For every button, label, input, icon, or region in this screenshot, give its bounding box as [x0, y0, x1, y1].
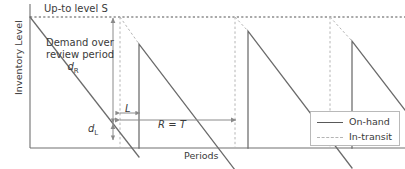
legend-swatch-in-transit: [317, 137, 343, 138]
legend-swatch-on-hand: [317, 122, 343, 123]
demand-label-line1: Demand over: [46, 37, 114, 48]
y-axis-label: Inventory Level: [13, 13, 24, 103]
legend-item-in-transit: In-transit: [311, 130, 399, 145]
legend-item-on-hand: On-hand: [311, 115, 399, 130]
in-transit-ramp-2: [235, 17, 248, 31]
dl-subscript: L: [94, 129, 98, 137]
lead-demand-symbol-dl: dL: [88, 123, 98, 137]
lead-time-label: L: [125, 103, 131, 115]
legend-label-in-transit: In-transit: [349, 131, 392, 142]
in-transit-ramp-1: [120, 17, 139, 44]
up-to-level-label: Up-to level S: [44, 3, 108, 15]
demand-label-line2: review period: [46, 49, 114, 60]
inventory-policy-chart: Inventory Level Periods Up-to level S De…: [0, 0, 405, 169]
chart-legend: On-hand In-transit: [310, 111, 400, 146]
in-transit-ramp-3: [330, 17, 352, 41]
x-axis-label: Periods: [184, 150, 219, 161]
demand-symbol-dr: dR: [46, 61, 114, 75]
dr-subscript: R: [74, 67, 79, 75]
review-period-label: R = T: [158, 119, 186, 131]
demand-over-review-period-label: Demand over review period dR: [46, 37, 114, 75]
legend-label-on-hand: On-hand: [349, 116, 390, 127]
